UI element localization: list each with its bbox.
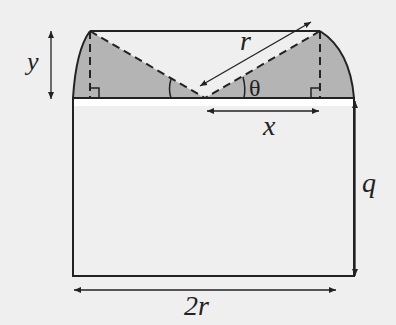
label-r: r (240, 25, 251, 56)
label-x: x (262, 110, 276, 141)
label-2r: 2r (184, 290, 209, 321)
label-y: y (24, 47, 39, 76)
label-theta: θ (249, 75, 261, 101)
geometry-diagram: y r θ x q 2r (0, 0, 396, 325)
rectangle (73, 98, 354, 276)
white-band (74, 99, 353, 106)
label-q: q (362, 167, 376, 198)
